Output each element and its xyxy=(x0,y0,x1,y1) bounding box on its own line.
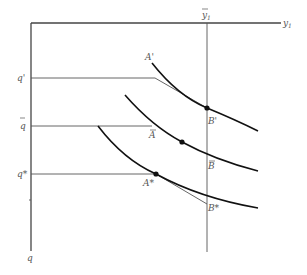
label-A-bar: A xyxy=(148,130,156,140)
middle-curve xyxy=(125,95,258,171)
label-B-bar: B xyxy=(207,161,215,171)
label-q-axis: q xyxy=(27,253,33,263)
label-B-prime: B' xyxy=(207,116,217,126)
label-q-star: q* xyxy=(17,169,28,179)
label-A-star: A* xyxy=(142,178,154,188)
point-middle xyxy=(179,139,184,144)
label-B-star: B* xyxy=(207,203,220,213)
upper-curve xyxy=(152,63,258,131)
label-q-bar: q xyxy=(20,121,26,131)
q-star-line xyxy=(31,174,207,204)
label-q-prime: q' xyxy=(17,73,25,83)
label-y1-axis: y1 xyxy=(282,18,292,29)
lower-curve xyxy=(98,126,258,208)
diagram: y1 y1 q' q q* q A' B' A B A* B* xyxy=(0,0,307,275)
point-B-prime xyxy=(204,105,209,110)
point-A-star xyxy=(153,171,158,176)
label-A-prime: A' xyxy=(144,52,154,62)
label-y1-bar: y1 xyxy=(201,10,211,21)
